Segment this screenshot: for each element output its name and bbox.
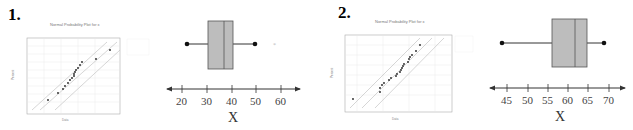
pp1-ylabel: Percent bbox=[11, 69, 15, 80]
outlier-marker: * bbox=[273, 42, 276, 48]
pp2-xlabel: Data bbox=[392, 117, 399, 121]
pp2-ylabel: Percent bbox=[330, 67, 334, 78]
box-plot-2: 45 50 55 60 65 70 X bbox=[489, 19, 626, 124]
box-plot-1: * 20 30 40 50 60 X bbox=[166, 21, 301, 125]
box1-tick-20: 20 bbox=[176, 95, 188, 107]
pp1-xlabel: Data bbox=[62, 118, 69, 122]
probability-plot-1: Data Percent bbox=[11, 38, 149, 122]
box1-xlabel: X bbox=[228, 110, 238, 125]
box2-xlabel: X bbox=[555, 109, 565, 124]
box1-tick-60: 60 bbox=[275, 95, 287, 107]
box2-tick-70: 70 bbox=[603, 94, 615, 106]
probability-plot-2: Data Percent bbox=[330, 35, 473, 121]
box1-tick-30: 30 bbox=[201, 95, 213, 107]
box2-tick-60: 60 bbox=[562, 94, 574, 106]
box2-tick-45: 45 bbox=[501, 94, 513, 106]
box2-tick-65: 65 bbox=[582, 94, 594, 106]
box2-tick-55: 55 bbox=[542, 94, 554, 106]
box1-tick-40: 40 bbox=[226, 95, 238, 107]
box1-tick-50: 50 bbox=[250, 95, 262, 107]
figures: Data Percent * 20 30 40 50 60 X bbox=[0, 0, 633, 130]
box2-tick-50: 50 bbox=[522, 94, 534, 106]
